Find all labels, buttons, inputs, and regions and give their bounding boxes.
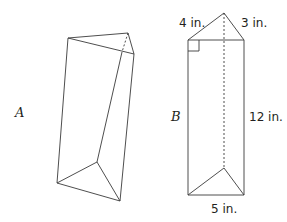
prism-a <box>57 33 134 201</box>
prism-a-edge-right <box>120 54 134 201</box>
diagram-canvas <box>0 0 287 222</box>
prism-b-label: B <box>171 110 181 123</box>
prism-b-bottom-face <box>188 168 244 195</box>
dimension-3in: 3 in. <box>241 17 267 29</box>
dimension-5in: 5 in. <box>211 203 237 215</box>
prism-a-top-face <box>68 33 134 54</box>
prism-b <box>188 13 244 195</box>
prism-a-edge-middle <box>97 52 122 162</box>
dimension-12in: 12 in. <box>249 111 283 123</box>
dimension-4in: 4 in. <box>179 17 205 29</box>
prism-a-top-hidden-edge <box>122 33 128 52</box>
prism-a-label: A <box>15 106 24 119</box>
prism-a-bottom-face <box>57 162 120 201</box>
prism-a-edge-left <box>57 38 68 183</box>
right-angle-marker <box>188 40 199 51</box>
